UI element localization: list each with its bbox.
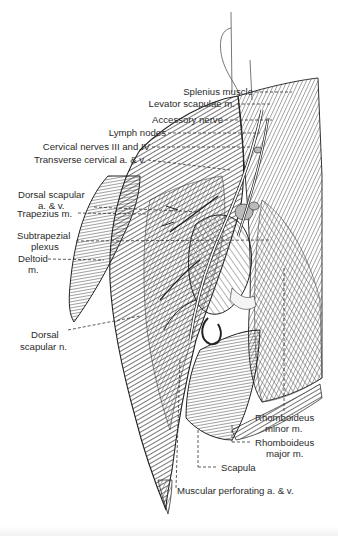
label-dorsal-scapular-av-line1: Dorsal scapular <box>18 189 85 200</box>
label-scapula: Scapula <box>221 462 256 473</box>
label-rhomboid-minor-line1: Rhomboideus <box>255 412 314 423</box>
label-rhomboid-major-line2: major m. <box>266 448 303 459</box>
label-deltoid-line2: m. <box>28 264 39 275</box>
label-lymph-nodes: Lymph nodes <box>60 127 166 138</box>
label-subtrapezial-line1: Subtrapezial <box>17 230 70 241</box>
label-muscular-perforating: Muscular perforating a. & v. <box>177 485 294 496</box>
label-dorsal-scapular-n-line1: Dorsal <box>31 329 59 340</box>
label-deltoid-line1: Deltoid <box>18 253 48 264</box>
caption-strip <box>0 526 338 536</box>
label-trapezius: Trapezius m. <box>17 208 72 219</box>
label-subtrapezial-line2: plexus <box>31 241 59 252</box>
label-cervical-nerves: Cervical nerves III and IV <box>10 141 150 152</box>
label-dorsal-scapular-n-line2: scapular n. <box>20 341 67 352</box>
label-accessory-nerve: Accessory nerve <box>100 114 223 125</box>
label-levator-scapulae: Levator scapulae m. <box>120 98 235 109</box>
label-rhomboid-minor-line2: minor m. <box>265 423 302 434</box>
label-transverse-cervical: Transverse cervical a. & v. <box>0 154 146 165</box>
label-rhomboid-major-line1: Rhomboideus <box>255 437 314 448</box>
label-splenius-muscle: Splenius muscle <box>150 86 253 97</box>
